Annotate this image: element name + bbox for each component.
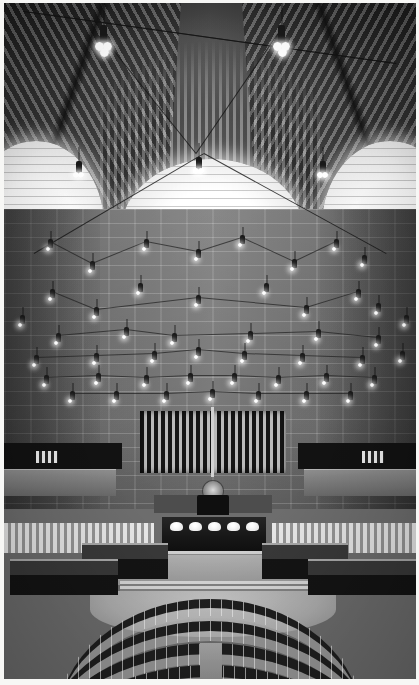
photograph-plate bbox=[4, 3, 416, 679]
tiered-seating-layer bbox=[4, 3, 416, 679]
photograph-frame bbox=[0, 0, 419, 685]
center-aisle bbox=[200, 643, 222, 679]
